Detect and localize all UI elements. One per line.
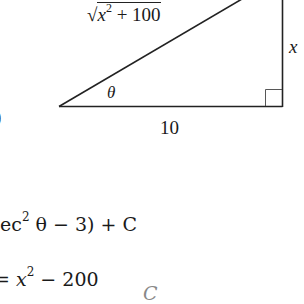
eq1-rest: θ − 3) + C [30, 213, 138, 235]
eq2-exponent: 2 [27, 265, 35, 279]
equation-line-1: ec2 θ − 3) + C [0, 213, 137, 235]
hypotenuse-label: √x2 + 100 [87, 2, 161, 26]
equation-line-2: = x2 − 200 [0, 268, 99, 290]
eq2-prefix: = [0, 268, 16, 290]
vertical-leg-label: x [289, 36, 297, 58]
eq2-rest: − 200 [34, 268, 98, 290]
hypotenuse-rest: + 100 [112, 4, 161, 25]
left-edge-fragment: ) [0, 106, 1, 128]
eq1-exponent: 2 [22, 210, 30, 224]
angle-label: θ [107, 83, 115, 103]
eq1-prefix: ec [0, 213, 22, 235]
hypotenuse-exponent: 2 [106, 1, 112, 15]
eq2-var: x [16, 268, 27, 290]
right-angle-marker [266, 90, 283, 107]
radical-sign: √ [87, 4, 97, 25]
base-label: 10 [160, 117, 179, 139]
equation-line-2-trail: C [143, 282, 158, 304]
hypotenuse-base-var: x [97, 4, 105, 25]
